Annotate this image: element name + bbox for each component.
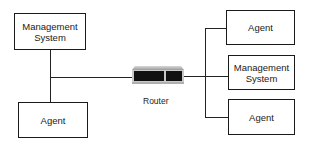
left-vertical-line	[50, 50, 51, 102]
node-label: Agent	[41, 115, 66, 126]
right-top-branch	[205, 28, 227, 29]
left-horizontal-line	[50, 77, 134, 78]
agent-node-left: Agent	[18, 102, 88, 138]
management-system-node-right: Management System	[228, 55, 295, 90]
node-label-line2: System	[234, 73, 289, 84]
node-label-line1: Management	[234, 62, 289, 73]
management-system-node-left: Management System	[14, 13, 86, 50]
right-vertical-line	[205, 28, 206, 118]
node-label: Agent	[248, 22, 273, 33]
agent-node-right-bottom: Agent	[228, 99, 295, 135]
router-label: Router	[143, 96, 169, 106]
right-bottom-branch	[205, 117, 228, 118]
node-label: Agent	[249, 112, 274, 123]
node-label-line1: Management	[22, 21, 77, 32]
router-icon	[132, 66, 184, 84]
node-label-line2: System	[22, 32, 77, 43]
agent-node-right-top: Agent	[226, 10, 295, 45]
